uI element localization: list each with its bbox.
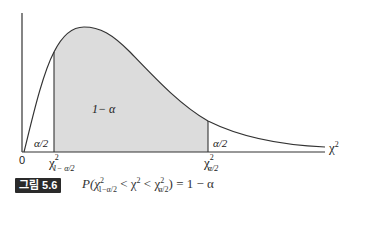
left-tail-label: α/2 (34, 137, 48, 149)
right-tail-label: α/2 (213, 137, 227, 149)
lower-critical-label: χ21− α/2 (49, 155, 75, 173)
origin-label: 0 (19, 154, 25, 166)
central-region-shade (54, 27, 208, 152)
central-area-text: 1− α (92, 102, 115, 116)
figure-number-badge: 그림 5.6 (15, 178, 61, 193)
figure-caption: P(χ21−α/2 < χ2 < χ2α/2) = 1 − α (82, 176, 214, 194)
central-area-label: 1− α (92, 102, 115, 117)
upper-critical-label: χ2α/2 (204, 155, 218, 173)
x-axis-label: χ2 (329, 140, 339, 156)
